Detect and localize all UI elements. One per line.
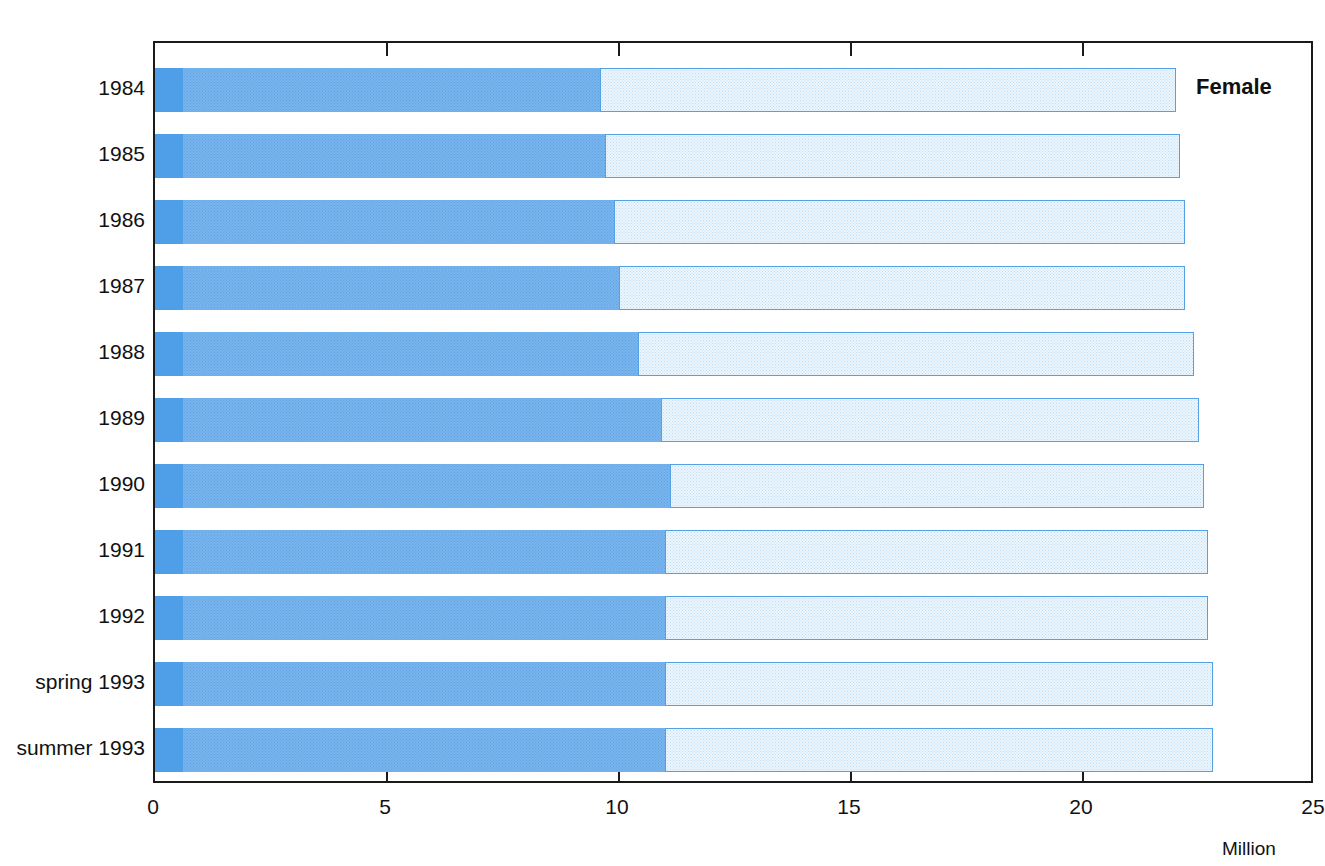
category-label-1987: 1987	[0, 275, 145, 297]
bar-segment-segment-1[interactable]	[155, 398, 183, 442]
category-label-1990: 1990	[0, 473, 145, 495]
stacked-bar[interactable]	[155, 662, 1213, 706]
bar-segment-segment-1[interactable]	[155, 728, 183, 772]
bar-segment-segment-2[interactable]	[183, 464, 670, 508]
category-label-1986: 1986	[0, 209, 145, 231]
bar-segment-segment-3[interactable]	[665, 728, 1213, 772]
bar-segment-segment-1[interactable]	[155, 266, 183, 310]
bar-segment-segment-2[interactable]	[183, 596, 666, 640]
category-label-spring-1993: spring 1993	[0, 671, 145, 693]
bar-segment-segment-2[interactable]	[183, 266, 619, 310]
category-label-1989: 1989	[0, 407, 145, 429]
stacked-bar[interactable]	[155, 200, 1185, 244]
category-label-1985: 1985	[0, 143, 145, 165]
category-label-summer-1993: summer 1993	[0, 737, 145, 759]
xtick-label-15: 15	[837, 796, 860, 818]
stacked-bar[interactable]	[155, 530, 1208, 574]
bar-segment-segment-3[interactable]	[638, 332, 1195, 376]
xtick-label-20: 20	[1069, 796, 1092, 818]
bar-segment-segment-1[interactable]	[155, 596, 183, 640]
bar-segment-segment-3[interactable]	[605, 134, 1180, 178]
bar-segment-segment-2[interactable]	[183, 530, 666, 574]
xtick-label-5: 5	[379, 796, 391, 818]
bar-segment-segment-3[interactable]	[619, 266, 1185, 310]
category-label-1988: 1988	[0, 341, 145, 363]
bar-segment-segment-2[interactable]	[183, 728, 666, 772]
bar-segment-segment-2[interactable]	[183, 68, 601, 112]
stacked-bar[interactable]	[155, 464, 1204, 508]
bar-segment-segment-1[interactable]	[155, 464, 183, 508]
category-label-1984: 1984	[0, 77, 145, 99]
xtick-label-10: 10	[605, 796, 628, 818]
bar-segment-segment-2[interactable]	[183, 332, 638, 376]
category-label-1991: 1991	[0, 539, 145, 561]
bar-segment-segment-2[interactable]	[183, 200, 615, 244]
bar-segment-segment-2[interactable]	[183, 662, 666, 706]
bar-segment-segment-3[interactable]	[614, 200, 1185, 244]
bar-segment-segment-3[interactable]	[661, 398, 1199, 442]
bar-segment-segment-3[interactable]	[665, 662, 1213, 706]
axis-unit-label: Million	[1222, 838, 1276, 860]
bar-segment-segment-3[interactable]	[670, 464, 1204, 508]
bar-segment-segment-3[interactable]	[600, 68, 1175, 112]
bar-segment-segment-3[interactable]	[665, 596, 1208, 640]
bar-segment-segment-1[interactable]	[155, 134, 183, 178]
bar-segment-segment-2[interactable]	[183, 398, 661, 442]
stacked-bar[interactable]	[155, 332, 1194, 376]
stacked-bar[interactable]	[155, 398, 1199, 442]
bar-segment-segment-2[interactable]	[183, 134, 605, 178]
xtick-label-25: 25	[1301, 796, 1324, 818]
stacked-bar[interactable]	[155, 728, 1213, 772]
stacked-bar[interactable]	[155, 68, 1176, 112]
chart-plot-area	[153, 41, 1313, 783]
bar-segment-segment-1[interactable]	[155, 68, 183, 112]
stacked-bar[interactable]	[155, 596, 1208, 640]
bar-segment-segment-1[interactable]	[155, 332, 183, 376]
bar-segment-segment-1[interactable]	[155, 530, 183, 574]
category-label-1992: 1992	[0, 605, 145, 627]
bar-segment-segment-1[interactable]	[155, 200, 183, 244]
stacked-bar[interactable]	[155, 266, 1185, 310]
bar-rows	[155, 43, 1311, 781]
series-annotation-female: Female	[1196, 74, 1272, 100]
stacked-bar[interactable]	[155, 134, 1180, 178]
bar-segment-segment-1[interactable]	[155, 662, 183, 706]
xtick-label-0: 0	[147, 796, 159, 818]
bar-segment-segment-3[interactable]	[665, 530, 1208, 574]
